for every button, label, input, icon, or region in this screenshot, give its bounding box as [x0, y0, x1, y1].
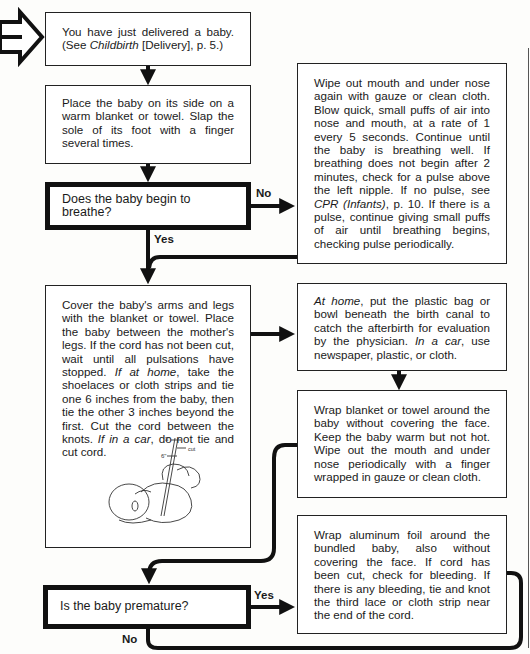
svg-text:3": 3" — [165, 436, 170, 442]
place-baby-box: Place the baby on its side on a warm bla… — [45, 85, 251, 164]
baby-cord-illustration: 3" 6" cut — [91, 434, 211, 534]
svg-text:6": 6" — [161, 453, 166, 459]
svg-text:cut: cut — [188, 446, 196, 452]
wrap-blanket-text: Wrap blanket or towel around the baby wi… — [314, 403, 490, 483]
premature-yes-label: Yes — [254, 589, 274, 601]
wrap-foil-text: Wrap aluminum foil around the bundled ba… — [314, 528, 490, 622]
breathe-yes-label: Yes — [154, 233, 174, 245]
wipe-mouth-box: Wipe out mouth and under nose again with… — [297, 63, 507, 264]
afterbirth-box: At home, put the plastic bag or bowl ben… — [297, 283, 507, 371]
cover-baby-box: Cover the baby's arms and legs with the … — [45, 285, 251, 548]
childbirth-reference: Childbirth — [90, 38, 139, 51]
page-edge-line — [528, 48, 530, 648]
entry-arrow-icon — [0, 12, 42, 62]
premature-no-label: No — [122, 633, 137, 645]
decision-premature-question: Is the baby premature? — [60, 600, 189, 613]
decision-breathe-question: Does the baby begin to breathe? — [62, 193, 230, 220]
decision-premature-box: Is the baby premature? — [43, 585, 251, 629]
place-baby-text: Place the baby on its side on a warm bla… — [62, 96, 234, 150]
wrap-foil-box: Wrap aluminum foil around the bundled ba… — [297, 515, 507, 634]
start-box: You have just delivered a baby. (See Chi… — [45, 12, 251, 66]
breathe-no-label: No — [256, 187, 271, 199]
wrap-blanket-box: Wrap blanket or towel around the baby wi… — [297, 390, 507, 498]
cpr-reference: CPR (Infants) — [314, 197, 386, 210]
decision-breathe-box: Does the baby begin to breathe? — [45, 182, 251, 230]
